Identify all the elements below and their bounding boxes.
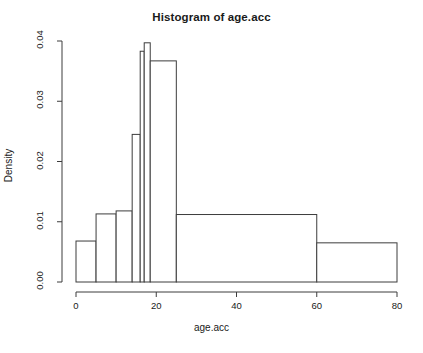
histogram-bar <box>96 214 116 282</box>
histogram-bar <box>116 211 132 282</box>
x-tick-label: 80 <box>382 300 412 311</box>
x-tick-label: 0 <box>61 300 91 311</box>
histogram-bar <box>76 241 96 282</box>
x-axis <box>76 292 397 297</box>
histogram-bars <box>76 43 397 282</box>
y-tick-label: 0.03 <box>34 85 45 115</box>
y-tick-label: 0.02 <box>34 145 45 175</box>
y-tick-label: 0.04 <box>34 25 45 55</box>
y-tick-label: 0.01 <box>34 205 45 235</box>
histogram-figure: Histogram of age.acc age.acc Density 0.0… <box>0 0 423 353</box>
x-axis-label: age.acc <box>0 322 423 333</box>
x-tick-label: 60 <box>302 300 332 311</box>
histogram-bar <box>150 61 176 282</box>
y-axis-label: Density <box>3 136 14 196</box>
histogram-bar <box>140 51 144 282</box>
y-tick-label: 0.00 <box>34 266 45 296</box>
histogram-bar <box>317 243 397 282</box>
histogram-bar <box>176 215 316 282</box>
y-axis <box>57 41 62 282</box>
histogram-bar <box>132 134 140 282</box>
x-tick-label: 40 <box>222 300 252 311</box>
histogram-bar <box>144 43 150 282</box>
x-tick-label: 20 <box>141 300 171 311</box>
